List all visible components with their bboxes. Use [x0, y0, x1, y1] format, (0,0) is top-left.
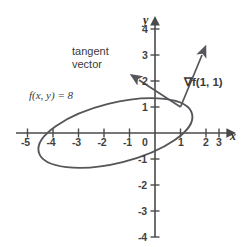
- x-tick-label-3: 3: [216, 136, 222, 148]
- tangent-vector-label: tangent vector: [72, 45, 109, 71]
- x-tick-label--4: -4: [47, 136, 56, 148]
- y-tick-label--2: -2: [138, 179, 147, 191]
- origin-label: 0: [142, 136, 148, 148]
- tangent-vector-label-line1: tangent: [72, 45, 109, 58]
- x-tick-label--1: -1: [123, 136, 132, 148]
- y-tick-label--4: -4: [138, 231, 147, 243]
- gradient-vector-label: ∇f(1, 1): [184, 76, 223, 89]
- y-tick-label-2: 2: [142, 75, 148, 87]
- y-tick-label-3: 3: [142, 49, 148, 61]
- y-axis-name: y: [143, 13, 148, 28]
- y-tick-label-1: 1: [142, 101, 148, 113]
- plot-canvas: [0, 0, 249, 247]
- y-tick-label--3: -3: [138, 205, 147, 217]
- x-axis-name: x: [230, 129, 236, 144]
- x-tick-label--3: -3: [72, 136, 81, 148]
- x-tick-label-2: 2: [203, 136, 209, 148]
- x-tick-label-1: 1: [178, 136, 184, 148]
- gradient-level-curve-figure: -5 -4 -3 -2 -1 1 2 3 0 4 3 2 1 -1 -2 -3 …: [0, 0, 249, 247]
- y-axis: [151, 24, 160, 237]
- x-tick-label--2: -2: [98, 136, 107, 148]
- contour-level-label: f(x, y) = 8: [29, 89, 73, 102]
- x-tick-label--5: -5: [21, 136, 30, 148]
- y-tick-label--1: -1: [138, 153, 147, 165]
- tangent-vector-label-line2: vector: [72, 58, 109, 71]
